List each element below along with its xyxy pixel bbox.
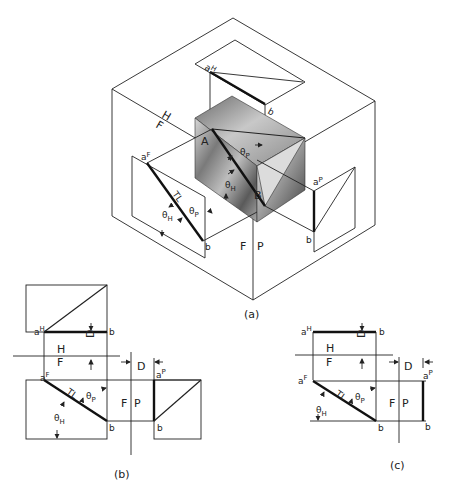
c-front-a: aF <box>298 374 308 386</box>
c-depth-d: D <box>355 330 368 338</box>
fold-label-fp-p: P <box>257 240 264 253</box>
panel-c-orthographic-open: aH b H F D aF b TL θP θH F P D aP b (c) <box>295 323 433 472</box>
b-top-b: b <box>109 327 115 337</box>
c-fold-f: F <box>326 356 332 369</box>
c-fold-fp-p: P <box>402 397 409 410</box>
c-side-b: b <box>425 422 431 432</box>
c-side-depth-d: D <box>404 360 412 373</box>
c-tl: TL <box>333 388 348 403</box>
c-fold-h: H <box>326 342 334 355</box>
panel-b-orthographic-boxed: aH b H F D aF b TL θP θH F P D <box>13 285 201 481</box>
c-top-a: aH <box>301 325 312 337</box>
label-b-f: b <box>205 242 211 252</box>
c-front-b: b <box>378 423 384 433</box>
point-b-label: B <box>254 189 262 202</box>
b-side-depth-d: D <box>137 360 145 373</box>
label-a-f: aF <box>141 151 151 162</box>
label-tl-a: TL <box>170 189 185 204</box>
label-a-p: aP <box>313 176 323 187</box>
b-fold-h: H <box>57 343 65 356</box>
top-view-box <box>26 285 107 332</box>
b-top-a: aH <box>34 325 45 337</box>
c-top-b: b <box>379 327 385 337</box>
b-theta-p: θP <box>86 391 96 404</box>
caption-c: (c) <box>390 459 405 472</box>
b-side-a: aP <box>156 368 166 380</box>
shaded-prism: A B θP θH <box>195 96 305 222</box>
caption-b: (b) <box>114 468 130 481</box>
label-b-p: b <box>306 235 312 245</box>
b-fold-fp-f: F <box>121 397 127 410</box>
b-fold-fp-p: P <box>134 397 141 410</box>
c-fold-fp-f: F <box>389 397 395 410</box>
b-front-b: b <box>109 423 115 433</box>
point-a-label: A <box>201 135 209 148</box>
front-theta-p: θP <box>189 206 199 219</box>
fold-label-f: F <box>154 118 166 132</box>
b-depth-d: D <box>84 330 97 338</box>
front-theta-h: θH <box>162 210 173 223</box>
b-fold-f: F <box>57 356 63 369</box>
caption-a: (a) <box>244 308 259 321</box>
front-view-box <box>26 380 107 439</box>
fold-label-fp-f: F <box>240 240 246 253</box>
b-side-b: b <box>157 423 163 433</box>
c-theta-p: θP <box>355 392 365 405</box>
b-tl: TL <box>64 386 79 401</box>
b-theta-h: θH <box>54 413 65 426</box>
b-front-a: aF <box>40 371 50 383</box>
c-side-a: aP <box>423 369 433 381</box>
engineering-drawing: aH b H F A B θP θH a <box>0 0 451 485</box>
label-b-h: b <box>266 106 276 118</box>
panel-a-pictorial: aH b H F A B θP θH a <box>112 18 375 321</box>
